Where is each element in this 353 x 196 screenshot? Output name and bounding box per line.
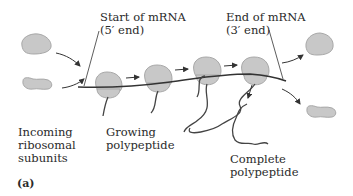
arrow-incoming-large <box>56 53 80 66</box>
label-end-mrna: End of mRNA (3′ end) <box>226 11 306 37</box>
incoming-large-subunit <box>22 34 51 54</box>
arrow-move-3 <box>224 65 237 66</box>
label-incoming-line3: subunits <box>18 152 76 165</box>
label-start-mrna: Start of mRNA (5′ end) <box>100 11 186 37</box>
growing-polypeptide-2 <box>151 91 158 113</box>
label-complete-line2: polypeptide <box>230 166 298 179</box>
label-complete-polypeptide: Complete polypeptide <box>230 153 298 179</box>
ribosome-2 <box>145 65 172 92</box>
arrow-outgoing-large <box>282 55 303 63</box>
ribosome-3 <box>194 57 221 85</box>
outgoing-large-subunit <box>306 33 333 55</box>
label-growing-line2: polypeptide <box>106 139 174 152</box>
ribosome-4 <box>242 57 269 85</box>
label-growing-polypeptide: Growing polypeptide <box>106 126 174 152</box>
label-start-line2: (5′ end) <box>100 24 186 37</box>
ribosome-1 <box>96 72 122 98</box>
arrow-move-1 <box>126 77 139 78</box>
translation-diagram: Start of mRNA (5′ end) End of mRNA (3′ e… <box>0 0 353 196</box>
label-end-line2: (3′ end) <box>226 24 306 37</box>
outgoing-small-subunit <box>307 106 336 118</box>
label-incoming-subunits: Incoming ribosomal subunits <box>18 126 76 165</box>
end-pointer-line <box>269 30 283 79</box>
incoming-small-subunit <box>23 78 52 90</box>
complete-polypeptide <box>233 104 268 144</box>
panel-label: (a) <box>17 177 35 190</box>
growing-polypeptide-1 <box>103 97 108 116</box>
growing-polypeptide-3 <box>184 84 207 132</box>
arrow-move-2 <box>175 69 188 70</box>
arrow-outgoing-small <box>282 89 300 104</box>
